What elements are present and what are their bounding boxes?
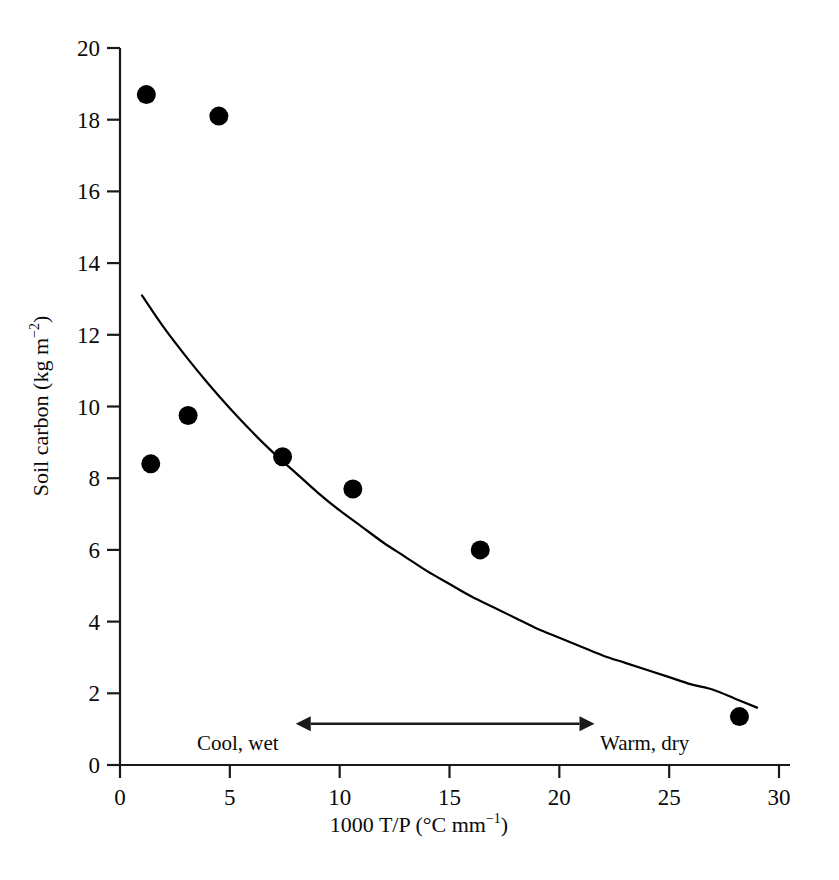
x-tick-label: 25	[658, 785, 681, 810]
x-axis-title: 1000 T/P (°C mm−1)	[330, 811, 508, 837]
data-point	[137, 85, 156, 104]
data-point	[730, 707, 749, 726]
y-axis-title-superscript: −2	[27, 323, 42, 338]
y-tick-label: 4	[89, 610, 101, 635]
y-tick-label: 14	[77, 251, 101, 276]
y-tick-label: 6	[89, 538, 101, 563]
chart-canvas: 02468101214161820 051015202530 Cool, wet…	[0, 0, 839, 880]
y-tick-label: 8	[89, 466, 101, 491]
y-tick-label: 18	[77, 108, 100, 133]
y-axis-title: Soil carbon (kg m−2)	[27, 316, 53, 497]
x-tick-label: 15	[438, 785, 461, 810]
x-tick-label: 20	[548, 785, 571, 810]
y-tick-label: 0	[89, 753, 101, 778]
x-tick-label: 0	[114, 785, 126, 810]
y-tick-label: 10	[77, 395, 100, 420]
figure-background	[0, 0, 839, 880]
data-point	[179, 406, 198, 425]
data-point	[471, 540, 490, 559]
y-tick-label: 2	[89, 681, 101, 706]
soil-carbon-scatter-figure: 02468101214161820 051015202530 Cool, wet…	[0, 0, 839, 880]
annotation-label-warm-dry: Warm, dry	[600, 731, 690, 755]
x-tick-label: 30	[768, 785, 791, 810]
y-axis-title-tail: )	[28, 316, 53, 323]
data-point	[141, 454, 160, 473]
y-tick-label: 12	[77, 323, 100, 348]
x-axis-title-superscript: −1	[486, 811, 501, 826]
y-tick-label: 16	[77, 179, 100, 204]
x-tick-label: 10	[328, 785, 351, 810]
x-axis-title-main: 1000 T/P (°C mm	[330, 812, 486, 837]
x-axis-title-tail: )	[501, 812, 508, 837]
data-point	[209, 107, 228, 126]
data-point	[273, 447, 292, 466]
y-axis-title-main: Soil carbon (kg m	[28, 338, 53, 496]
y-tick-label: 20	[77, 36, 100, 61]
annotation-label-cool-wet: Cool, wet	[197, 731, 279, 755]
x-tick-label: 5	[224, 785, 236, 810]
data-point	[343, 479, 362, 498]
